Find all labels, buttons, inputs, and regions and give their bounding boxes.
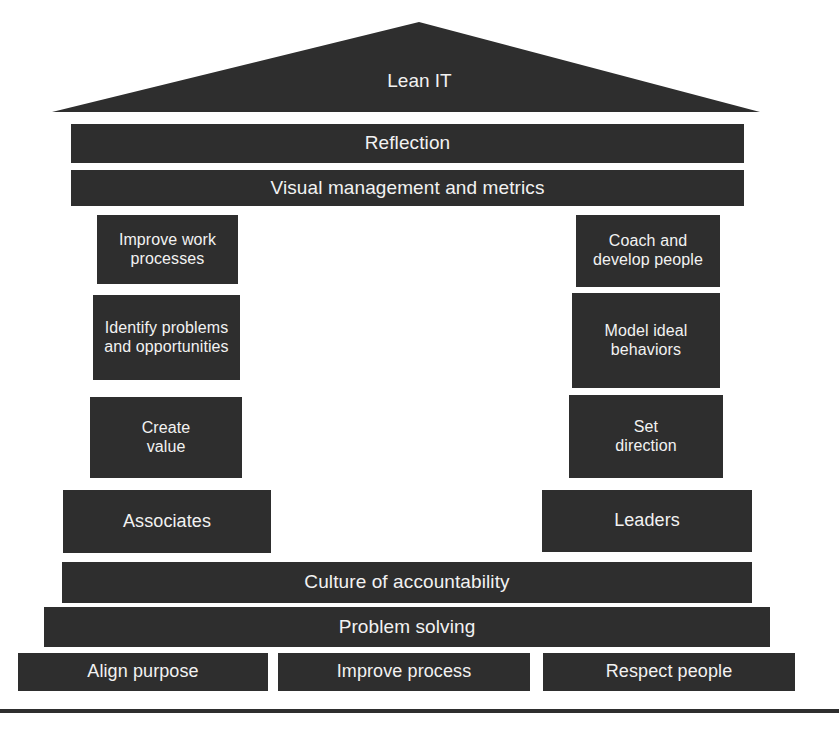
right-pillar-box-coach-develop-people-label: Coach anddevelop people (582, 232, 714, 270)
base-bar-align-purpose-label: Align purpose (24, 661, 262, 682)
foundation-bar-problem-solving: Problem solving (44, 607, 770, 647)
foundation-bar-culture-of-accountability: Culture of accountability (62, 562, 752, 603)
right-pillar-box-set-direction-line1: Set (575, 418, 717, 437)
left-pillar-box-improve-work-processes-line2: processes (103, 250, 232, 269)
right-pillar-box-model-ideal-behaviors: Model idealbehaviors (572, 293, 720, 388)
left-pillar-box-identify-problems-label: Identify problemsand opportunities (99, 319, 234, 357)
left-pillar-box-improve-work-processes-line1: Improve work (103, 231, 232, 250)
left-pillar-box-create-value-label: Createvalue (96, 419, 236, 457)
top-bar-reflection: Reflection (71, 124, 744, 163)
right-pillar-box-coach-develop-people-line1: Coach and (582, 232, 714, 251)
left-pillar-box-identify-problems: Identify problemsand opportunities (93, 295, 240, 380)
right-pillar-box-model-ideal-behaviors-label: Model idealbehaviors (578, 322, 714, 360)
left-pillar-footer-associates-label: Associates (69, 511, 265, 532)
left-pillar-box-improve-work-processes-label: Improve workprocesses (103, 231, 232, 269)
lean-it-house-diagram: Lean IT Reflection Visual management and… (0, 0, 839, 729)
right-pillar-box-set-direction: Setdirection (569, 395, 723, 478)
base-bar-improve-process-label: Improve process (284, 661, 524, 682)
right-pillar-box-coach-develop-people: Coach anddevelop people (576, 215, 720, 287)
right-pillar-box-model-ideal-behaviors-line2: behaviors (578, 341, 714, 360)
bottom-divider (0, 709, 839, 713)
right-pillar-box-coach-develop-people-line2: develop people (582, 251, 714, 270)
foundation-bar-problem-solving-label: Problem solving (50, 616, 764, 638)
foundation-bar-culture-of-accountability-label: Culture of accountability (68, 571, 746, 593)
left-pillar-box-create-value: Createvalue (90, 397, 242, 478)
base-bar-respect-people-label: Respect people (549, 661, 789, 682)
left-pillar-footer-associates: Associates (63, 490, 271, 553)
right-pillar-box-model-ideal-behaviors-line1: Model ideal (578, 322, 714, 341)
roof-shape (0, 0, 839, 120)
right-pillar-footer-leaders: Leaders (542, 490, 752, 552)
left-pillar-box-improve-work-processes: Improve workprocesses (97, 215, 238, 284)
top-bar-visual-management-label: Visual management and metrics (77, 177, 738, 199)
right-pillar-footer-leaders-label: Leaders (548, 510, 746, 531)
left-pillar-box-create-value-line2: value (96, 438, 236, 457)
right-pillar-box-set-direction-line2: direction (575, 437, 717, 456)
left-pillar-box-identify-problems-line2: and opportunities (99, 338, 234, 357)
base-bar-improve-process: Improve process (278, 653, 530, 691)
top-bar-visual-management: Visual management and metrics (71, 170, 744, 206)
left-pillar-box-identify-problems-line1: Identify problems (99, 319, 234, 338)
base-bar-respect-people: Respect people (543, 653, 795, 691)
left-pillar-box-create-value-line1: Create (96, 419, 236, 438)
base-bar-align-purpose: Align purpose (18, 653, 268, 691)
right-pillar-box-set-direction-label: Setdirection (575, 418, 717, 456)
top-bar-reflection-label: Reflection (77, 132, 738, 154)
